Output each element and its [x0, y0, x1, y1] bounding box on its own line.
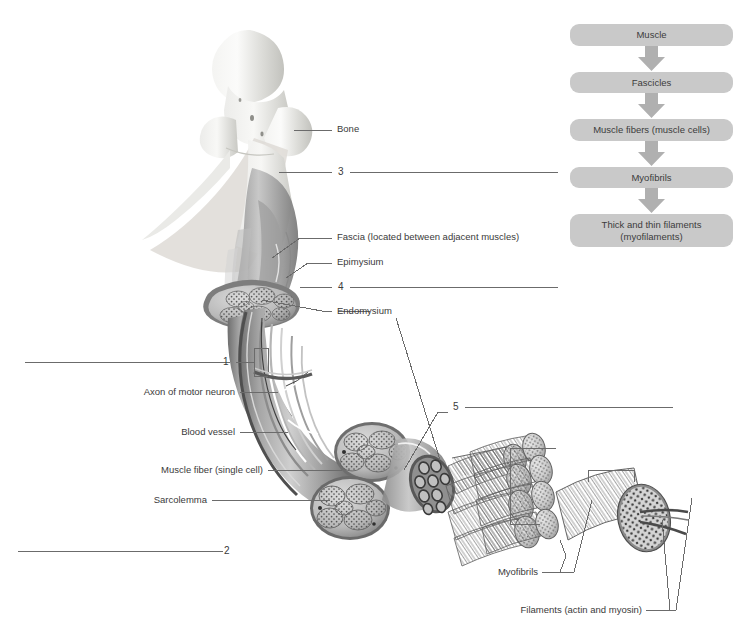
answer-rule-3 — [350, 172, 558, 173]
flow-step-fascicles: Fascicles — [570, 72, 733, 94]
flow-step-filaments: Thick and thin filaments (myofilaments) — [570, 214, 733, 247]
answer-rule-4 — [350, 287, 558, 288]
label-fascia: Fascia (located between adjacent muscles… — [337, 231, 519, 242]
down-arrow-icon-4 — [570, 188, 733, 214]
label-muscle-fiber: Muscle fiber (single cell) — [110, 464, 263, 475]
label-endomysium: Endomysium — [337, 305, 392, 316]
flow-step-filaments-line1: Thick and thin filaments — [576, 219, 727, 231]
flow-step-myofibrils: Myofibrils — [570, 167, 733, 189]
label-filaments: Filaments (actin and myosin) — [504, 604, 642, 615]
blank-number-1: 1 — [223, 356, 229, 367]
blank-number-5: 5 — [453, 401, 459, 412]
label-blood-vessel: Blood vessel — [160, 426, 235, 437]
label-bone: Bone — [337, 123, 359, 134]
down-arrow-icon-3 — [570, 141, 733, 167]
blank-number-4: 4 — [338, 281, 344, 292]
blank-number-2: 2 — [224, 545, 230, 556]
diagram-canvas: 1 2 3 4 5 Bone Fascia (located between a… — [0, 0, 739, 637]
answer-rule-2 — [18, 551, 223, 552]
answer-rule-5 — [465, 407, 673, 408]
label-myofibrils: Myofibrils — [483, 566, 538, 577]
flow-step-muscle-fibers: Muscle fibers (muscle cells) — [570, 119, 733, 141]
flow-step-filaments-line2: (myofilaments) — [576, 231, 727, 243]
flow-step-muscle: Muscle — [570, 24, 733, 46]
label-axon-of-motor-neuron: Axon of motor neuron — [120, 386, 235, 397]
down-arrow-icon-1 — [570, 46, 733, 72]
label-epimysium: Epimysium — [337, 256, 383, 267]
muscle-organization-flowchart: Muscle Fascicles Muscle fibers (muscle c… — [570, 24, 733, 247]
down-arrow-icon-2 — [570, 93, 733, 119]
label-sarcolemma: Sarcolemma — [150, 494, 207, 505]
answer-rule-1 — [25, 362, 230, 363]
blank-number-3: 3 — [338, 166, 344, 177]
